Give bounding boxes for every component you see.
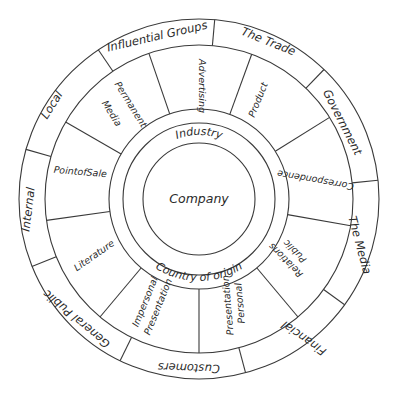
company-label: Company xyxy=(169,191,229,206)
local-label: Local xyxy=(38,88,66,122)
financial-label: Financial xyxy=(278,317,329,358)
industry-label: Industry xyxy=(174,125,225,142)
permanent-media-label-line2: Media xyxy=(100,98,125,128)
communication-wheel-diagram: Company Industry Country of origin Adver… xyxy=(0,0,394,394)
the-media-label: The Media xyxy=(345,214,374,275)
advertising-label: Advertising xyxy=(197,58,208,113)
literature-label: Literature xyxy=(72,237,117,273)
internal-label: Internal xyxy=(18,186,37,233)
personal-presentation-label-line1: Personal xyxy=(232,282,247,324)
correspondence-label: Correspondence xyxy=(276,168,355,192)
customers-label: Customers xyxy=(158,360,220,376)
point-of-sale-label: PointofSale xyxy=(53,164,107,180)
product-label: Product xyxy=(246,80,270,119)
influential-groups-label: Influential Groups xyxy=(106,18,209,55)
government-label: Government xyxy=(320,87,365,158)
